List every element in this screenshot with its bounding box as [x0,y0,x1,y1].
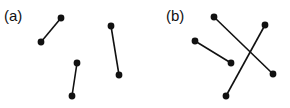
endpoint-dot [58,15,65,22]
endpoint-dot [223,93,230,100]
endpoint-dot [228,60,235,67]
line-segment [41,18,61,42]
line-segment [72,63,77,96]
endpoint-dot [192,38,199,45]
endpoint-dot [262,22,269,29]
endpoint-dot [108,23,115,30]
line-segment [195,41,231,63]
panel-b [192,14,277,100]
endpoint-dot [69,93,76,100]
endpoint-dot [116,72,123,79]
endpoint-dot [74,60,81,67]
segments-diagram [0,0,290,108]
endpoint-dot [38,39,45,46]
line-segment [111,26,119,75]
panel-a [38,15,123,100]
endpoint-dot [211,14,218,21]
endpoint-dot [270,71,277,78]
